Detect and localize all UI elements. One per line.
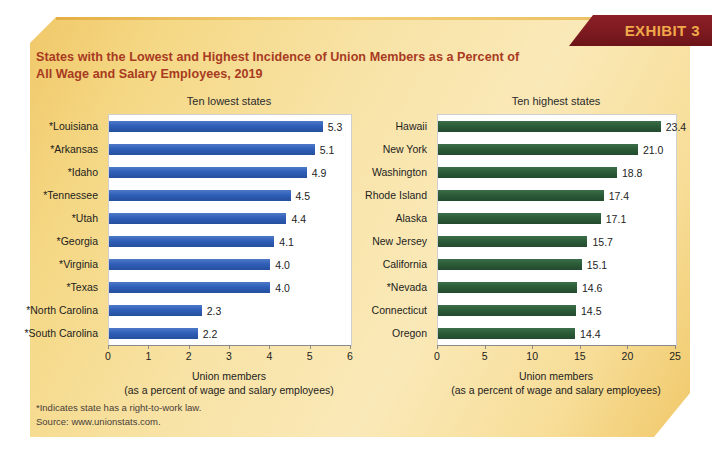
axis-tick-label: 10 — [526, 350, 538, 362]
category-label: Alaska — [352, 206, 432, 229]
axis-tick-label: 1 — [145, 350, 151, 362]
page-title-line2: All Wage and Salary Employees, 2019 — [36, 66, 596, 83]
axis-tick-label: 6 — [347, 350, 353, 362]
category-label: *Georgia — [10, 229, 103, 252]
bar — [438, 328, 575, 339]
bar — [109, 144, 315, 155]
category-label: New York — [352, 137, 432, 160]
category-labels-highest: HawaiiNew YorkWashingtonRhode IslandAlas… — [352, 114, 432, 344]
bar — [109, 259, 270, 270]
bar-row: 17.4 — [438, 184, 676, 207]
axis-tick-label: 2 — [186, 350, 192, 362]
bar — [109, 282, 270, 293]
bar — [109, 121, 323, 132]
bar-value-label: 17.1 — [606, 213, 626, 225]
x-axis-lowest: 0123456 — [108, 345, 350, 367]
bar — [109, 190, 291, 201]
footnote-source: Source: www.unionstats.com. — [36, 415, 201, 429]
x-axis-label: Union members — [88, 369, 370, 383]
category-label: New Jersey — [352, 229, 432, 252]
bar-row: 14.4 — [438, 322, 676, 345]
bar-row: 4.5 — [109, 184, 351, 207]
chart-title-highest: Ten highest states — [437, 95, 675, 107]
exhibit-banner: EXHIBIT 3 — [569, 15, 712, 46]
axis-tick — [148, 345, 149, 349]
bar-value-label: 4.0 — [275, 282, 290, 294]
bar-rows-lowest: 5.35.14.94.54.44.14.04.02.32.2 — [109, 115, 351, 345]
x-axis-sublabel: (as a percent of wage and salary employe… — [417, 383, 695, 397]
axis-tick — [310, 345, 311, 349]
bar-row: 14.5 — [438, 299, 676, 322]
bar-value-label: 4.4 — [291, 213, 306, 225]
bar — [438, 190, 604, 201]
bar-value-label: 5.3 — [328, 121, 343, 133]
bar-row: 2.3 — [109, 299, 351, 322]
x-axis-highest: 0510152025 — [437, 345, 675, 367]
bar-value-label: 15.1 — [587, 259, 607, 271]
category-label: Oregon — [352, 321, 432, 344]
bar-value-label: 4.0 — [275, 259, 290, 271]
category-label: Connecticut — [352, 298, 432, 321]
bar-value-label: 5.1 — [320, 144, 335, 156]
axis-tick — [580, 345, 581, 349]
bar-value-label: 14.5 — [581, 305, 601, 317]
bar-value-label: 21.0 — [643, 144, 663, 156]
bar — [109, 167, 307, 178]
bar-row: 5.3 — [109, 115, 351, 138]
category-label: Hawaii — [352, 114, 432, 137]
plot-area-highest: 23.421.018.817.417.115.715.114.614.514.4 — [437, 114, 677, 346]
axis-tick-label: 4 — [266, 350, 272, 362]
bar-value-label: 17.4 — [609, 190, 629, 202]
x-axis-sublabel: (as a percent of wage and salary employe… — [88, 383, 370, 397]
category-label: California — [352, 252, 432, 275]
bar — [438, 121, 661, 132]
axis-tick-label: 25 — [669, 350, 681, 362]
axis-tick-label: 20 — [622, 350, 634, 362]
x-axis-caption-lowest: Union members (as a percent of wage and … — [88, 369, 370, 397]
bar-value-label: 4.1 — [279, 236, 294, 248]
bar-row: 4.4 — [109, 207, 351, 230]
bar — [438, 305, 576, 316]
plot-area-lowest: 5.35.14.94.54.44.14.04.02.32.2 — [108, 114, 352, 346]
category-label: *South Carolina — [10, 321, 103, 344]
axis-tick — [269, 345, 270, 349]
axis-tick — [437, 345, 438, 349]
bar — [438, 167, 617, 178]
bar-rows-highest: 23.421.018.817.417.115.715.114.614.514.4 — [438, 115, 676, 345]
axis-tick-label: 0 — [434, 350, 440, 362]
axis-tick — [627, 345, 628, 349]
category-label: *Louisiana — [10, 114, 103, 137]
category-label: *Arkansas — [10, 137, 103, 160]
bar — [109, 328, 198, 339]
bar — [438, 259, 582, 270]
page-title: States with the Lowest and Highest Incid… — [36, 49, 596, 82]
bar-value-label: 4.9 — [312, 167, 327, 179]
x-axis-label: Union members — [417, 369, 695, 383]
category-label: *Nevada — [352, 275, 432, 298]
bar-value-label: 23.4 — [666, 121, 686, 133]
bar — [109, 236, 274, 247]
bar-row: 15.7 — [438, 230, 676, 253]
axis-tick — [108, 345, 109, 349]
bar-row: 23.4 — [438, 115, 676, 138]
axis-tick — [350, 345, 351, 349]
bar-value-label: 4.5 — [296, 190, 311, 202]
axis-tick — [675, 345, 676, 349]
bar-row: 4.0 — [109, 253, 351, 276]
category-label: *Tennessee — [10, 183, 103, 206]
bar — [438, 213, 601, 224]
axis-tick-label: 5 — [307, 350, 313, 362]
bar-row: 18.8 — [438, 161, 676, 184]
bar-row: 15.1 — [438, 253, 676, 276]
bar-value-label: 2.2 — [203, 328, 218, 340]
bar-row: 4.9 — [109, 161, 351, 184]
bar-value-label: 14.6 — [582, 282, 602, 294]
bar — [438, 282, 577, 293]
bar-row: 4.1 — [109, 230, 351, 253]
bar-value-label: 14.4 — [580, 328, 600, 340]
bar-row: 2.2 — [109, 322, 351, 345]
category-label: Washington — [352, 160, 432, 183]
bar-value-label: 15.7 — [592, 236, 612, 248]
bar-row: 21.0 — [438, 138, 676, 161]
bar — [438, 236, 587, 247]
